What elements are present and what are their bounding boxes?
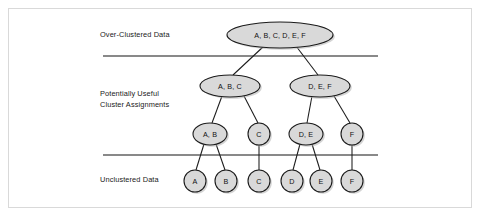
cluster-hierarchy-diagram: A, B, C, D, E, FA, B, CD, E, FA, BCD, EF… xyxy=(0,0,482,218)
nodes-group: A, B, C, D, E, FA, B, CD, E, FA, BCD, EF… xyxy=(184,22,365,194)
edge-ab-a4 xyxy=(196,144,204,170)
node-label-abc: A, B, C xyxy=(218,82,242,91)
band-labels-group: Over-Clustered DataPotentially UsefulClu… xyxy=(100,30,170,184)
node-b4[interactable]: B xyxy=(215,170,239,194)
node-label-c4: C xyxy=(256,177,261,186)
node-label-def: D, E, F xyxy=(308,82,332,91)
node-ab[interactable]: A, B xyxy=(193,123,229,147)
band-label-line: Potentially Useful xyxy=(100,89,159,98)
edge-de-e4 xyxy=(312,144,320,170)
node-label-a4: A xyxy=(193,177,198,186)
node-root[interactable]: A, B, C, D, E, F xyxy=(227,22,335,50)
band-label-unclustered: Unclustered Data xyxy=(100,175,159,184)
node-label-d4: D xyxy=(289,177,294,186)
edge-abc-ab xyxy=(212,96,222,123)
edge-abc-c3 xyxy=(244,96,258,123)
edge-root-abc xyxy=(233,46,264,75)
band-label-line: Cluster Assignments xyxy=(100,100,169,109)
node-f4[interactable]: F xyxy=(341,170,365,194)
node-label-c3: C xyxy=(256,130,261,139)
node-label-e4: E xyxy=(319,177,324,186)
node-label-f3: F xyxy=(350,130,355,139)
node-label-de: D, E xyxy=(299,130,314,139)
node-e4[interactable]: E xyxy=(310,170,334,194)
node-label-b4: B xyxy=(224,177,229,186)
figure-root: A, B, C, D, E, FA, B, CD, E, FA, BCD, EF… xyxy=(0,0,482,218)
edges-group xyxy=(196,46,352,170)
node-c3[interactable]: C xyxy=(248,123,272,147)
edge-def-de xyxy=(307,96,312,123)
node-def[interactable]: D, E, F xyxy=(290,75,352,99)
band-label-over-clustered: Over-Clustered Data xyxy=(100,30,170,39)
node-f3[interactable]: F xyxy=(341,123,365,147)
node-c4[interactable]: C xyxy=(248,170,272,194)
node-label-root: A, B, C, D, E, F xyxy=(254,31,306,40)
band-label-line: Unclustered Data xyxy=(100,175,159,184)
node-label-ab: A, B xyxy=(203,130,217,139)
edge-de-d4 xyxy=(293,144,300,170)
node-label-f4: F xyxy=(350,177,355,186)
band-label-line: Over-Clustered Data xyxy=(100,30,170,39)
node-d4[interactable]: D xyxy=(281,170,305,194)
edge-def-f3 xyxy=(334,96,350,123)
node-a4[interactable]: A xyxy=(184,170,208,194)
band-label-potentially-useful: Potentially UsefulCluster Assignments xyxy=(100,89,169,109)
edge-root-def xyxy=(296,46,318,75)
node-abc[interactable]: A, B, C xyxy=(200,75,262,99)
edge-ab-b4 xyxy=(216,144,225,170)
node-de[interactable]: D, E xyxy=(289,123,325,147)
